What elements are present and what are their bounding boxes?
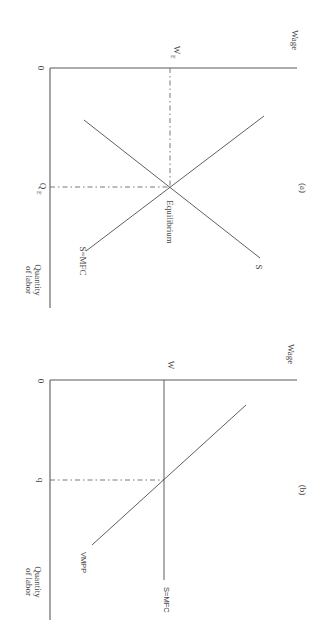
panel-a-wage-axis-label: Wage [290,30,300,50]
svg-text:E: E [170,55,176,59]
panel-b-quantity-axis-label: Quantity of labor [24,566,43,598]
panel-a-supply-label: S [254,264,264,269]
panel-b-vmpp-label: VMPP [79,552,88,573]
svg-text:Wage: Wage [290,30,300,50]
svg-text:W: W [172,46,182,55]
panel-b-wage-marker: W [166,361,176,370]
svg-text:E: E [36,191,42,195]
panel-b-quantity-marker: q [36,478,46,483]
panel-a-quantity-axis-label: Quantity of labor [24,264,43,296]
panel-a-caption: (a) [298,183,308,193]
panel-b-wage-axis-label: Wage [286,344,296,364]
panel-b-mfc-label: S=MFC [162,587,171,613]
panel-b: 0 Wage W q S=MFC VMPP Quantity of labor … [24,344,308,620]
panel-b-origin-label: 0 [36,379,46,384]
svg-text:of labor: of labor [24,568,34,596]
panel-a-equilibrium-label: Equilibrium [165,200,175,244]
svg-text:of labor: of labor [24,266,34,294]
panel-b-caption: (b) [298,485,308,496]
panel-a-origin-label: 0 [36,66,46,71]
panel-a-wage-marker: W E [170,46,182,59]
labor-market-diagram: 0 Wage W E Q E Equilibrium S=MFC S Quant… [0,0,324,637]
panel-b-vmpp-curve [92,405,246,545]
panel-a: 0 Wage W E Q E Equilibrium S=MFC S Quant… [24,30,308,308]
panel-a-demand-label: S=MFC [78,246,88,275]
panel-a-quantity-marker: Q E [36,183,48,195]
svg-text:Q: Q [38,183,48,190]
